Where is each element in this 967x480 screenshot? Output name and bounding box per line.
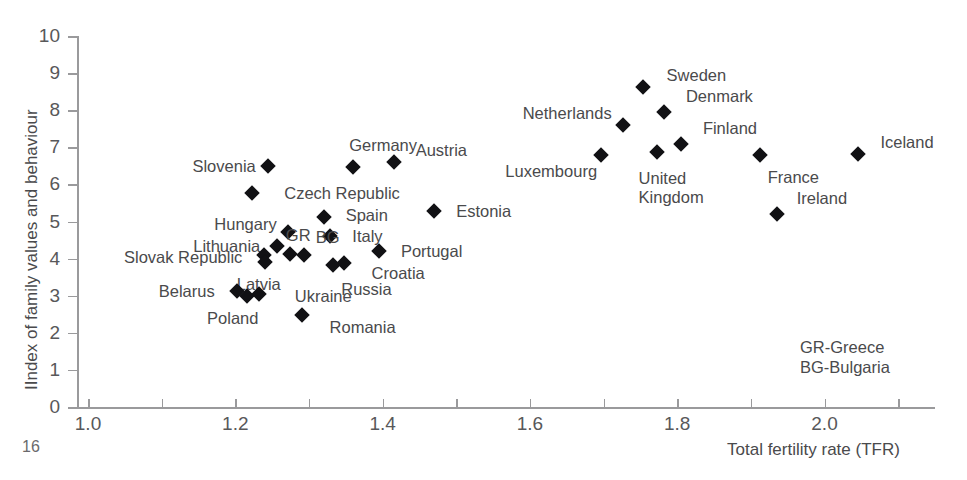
data-point-label: Ukraine xyxy=(295,287,352,305)
x-tick xyxy=(88,399,90,408)
x-minor-tick xyxy=(309,399,311,408)
data-point-label: Sweden xyxy=(667,66,727,84)
x-tick-label: 1.4 xyxy=(353,414,413,433)
y-tick xyxy=(68,407,77,409)
x-tick-label: 2.0 xyxy=(795,414,855,433)
data-point-label: BG xyxy=(316,228,340,246)
data-point-label: UnitedKingdom xyxy=(639,169,704,207)
x-minor-tick xyxy=(456,399,458,408)
data-point-label: Austria xyxy=(416,141,467,159)
data-point-marker xyxy=(386,154,402,170)
data-point-marker xyxy=(673,137,689,153)
x-tick-label: 1.2 xyxy=(205,414,265,433)
y-tick xyxy=(68,222,77,224)
y-tick xyxy=(68,147,77,149)
page-number: 16 xyxy=(22,438,40,456)
x-axis-label: Total fertility rate (TFR) xyxy=(727,440,900,460)
data-point-marker xyxy=(594,147,610,163)
data-point-label: Romania xyxy=(330,318,396,336)
data-point-label: Ireland xyxy=(797,189,847,207)
data-point-label: Finland xyxy=(703,119,757,137)
data-point-marker xyxy=(635,79,651,95)
x-tick-label: 1.8 xyxy=(647,414,707,433)
data-point-label: Netherlands xyxy=(523,104,612,122)
data-point-marker xyxy=(294,307,310,323)
data-point-label: Poland xyxy=(207,309,258,327)
x-tick-label: 1.0 xyxy=(58,414,118,433)
x-minor-tick xyxy=(751,399,753,408)
data-point-label: France xyxy=(768,168,819,186)
data-point-marker xyxy=(296,247,312,263)
data-point-marker xyxy=(261,158,277,174)
data-point-label: Estonia xyxy=(456,202,511,220)
data-point-label: Slovenia xyxy=(192,157,255,175)
data-point-marker xyxy=(769,206,785,222)
x-tick xyxy=(825,399,827,408)
y-tick xyxy=(68,36,77,38)
data-point-label: Hungary xyxy=(214,215,276,233)
y-tick xyxy=(68,370,77,372)
data-point-marker xyxy=(649,144,665,160)
data-point-label: Iceland xyxy=(880,133,933,151)
y-tick xyxy=(68,110,77,112)
y-tick-label: 10 xyxy=(20,26,60,45)
y-tick xyxy=(68,333,77,335)
data-point-label: Spain xyxy=(346,206,388,224)
data-point-marker xyxy=(426,203,442,219)
data-point-label: Luxembourg xyxy=(505,162,597,180)
data-point-label: Slovak Republic xyxy=(124,248,242,266)
data-point-marker xyxy=(345,159,361,175)
x-tick xyxy=(383,399,385,408)
x-minor-tick xyxy=(604,399,606,408)
data-point-label: Portugal xyxy=(401,242,462,260)
y-tick xyxy=(68,184,77,186)
y-tick-label: 0 xyxy=(20,397,60,416)
x-minor-tick xyxy=(162,399,164,408)
y-tick xyxy=(68,73,77,75)
x-tick xyxy=(677,399,679,408)
data-point-marker xyxy=(615,117,631,133)
y-axis-label: IIndex of family values and behaviour xyxy=(22,109,42,390)
y-tick xyxy=(68,296,77,298)
y-tick xyxy=(68,259,77,261)
scatter-plot: 0123456789101.01.21.41.61.82.0SloveniaGe… xyxy=(0,0,967,480)
x-minor-tick xyxy=(898,399,900,408)
x-tick xyxy=(235,399,237,408)
x-tick xyxy=(530,399,532,408)
data-point-marker xyxy=(316,209,332,225)
data-point-label: Belarus xyxy=(159,282,215,300)
data-point-marker xyxy=(371,243,387,259)
data-point-marker xyxy=(656,105,672,121)
data-point-label: GR xyxy=(286,226,311,244)
abbreviation-legend-item: GR-Greece xyxy=(800,338,884,357)
data-point-label: Germany xyxy=(349,136,417,154)
y-axis-line xyxy=(77,36,79,407)
data-point-marker xyxy=(244,185,260,201)
data-point-marker xyxy=(752,147,768,163)
x-axis-line xyxy=(77,407,935,409)
data-point-label: Czech Republic xyxy=(284,184,400,202)
data-point-label: Denmark xyxy=(686,87,753,105)
data-point-marker xyxy=(851,146,867,162)
y-tick-label: 9 xyxy=(20,63,60,82)
x-tick-label: 1.6 xyxy=(500,414,560,433)
abbreviation-legend-item: BG-Bulgaria xyxy=(800,358,890,377)
